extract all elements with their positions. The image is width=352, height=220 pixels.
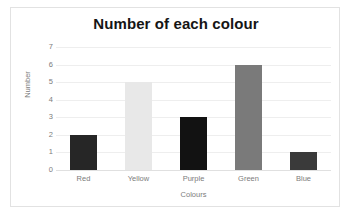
x-axis-title: Colours bbox=[56, 190, 331, 199]
x-axis-tick-label-green: Green bbox=[221, 174, 276, 183]
y-axis-tick-label: 4 bbox=[33, 96, 53, 104]
y-axis-tick-label: 6 bbox=[33, 61, 53, 69]
bar-red[interactable] bbox=[70, 135, 97, 170]
y-axis-tick-label: 0 bbox=[33, 166, 53, 174]
x-axis-tick-label-blue: Blue bbox=[276, 174, 331, 183]
bar-yellow[interactable] bbox=[125, 82, 152, 170]
x-axis-tick-label-yellow: Yellow bbox=[111, 174, 166, 183]
gridline bbox=[56, 170, 331, 171]
y-axis-tick-label: 2 bbox=[33, 131, 53, 139]
bar-slot bbox=[221, 47, 276, 170]
bar-purple[interactable] bbox=[180, 117, 207, 170]
bar-slot bbox=[111, 47, 166, 170]
chart-title: Number of each colour bbox=[11, 15, 341, 32]
bar-slot bbox=[276, 47, 331, 170]
bar-slot bbox=[56, 47, 111, 170]
x-axis-tick-label-red: Red bbox=[56, 174, 111, 183]
bar-blue[interactable] bbox=[290, 152, 317, 170]
y-axis-tick-label: 7 bbox=[33, 43, 53, 51]
y-axis-tick-labels: 01234567 bbox=[29, 47, 53, 170]
chart-container: Number of each colour Number 01234567 Re… bbox=[10, 7, 340, 207]
x-axis-tick-label-purple: Purple bbox=[166, 174, 221, 183]
y-axis-tick-label: 3 bbox=[33, 114, 53, 122]
bars-layer bbox=[56, 47, 331, 170]
y-axis-tick-label: 5 bbox=[33, 78, 53, 86]
bar-green[interactable] bbox=[235, 65, 262, 170]
y-axis-tick-label: 1 bbox=[33, 149, 53, 157]
bar-slot bbox=[166, 47, 221, 170]
x-axis-tick-labels: RedYellowPurpleGreenBlue bbox=[56, 174, 331, 183]
